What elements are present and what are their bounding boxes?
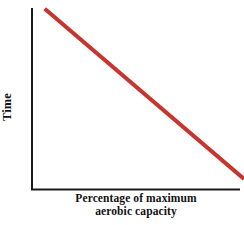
x-axis-label: Percentage of maximum aerobic capacity: [30, 192, 242, 217]
x-axis-label-line2: aerobic capacity: [30, 205, 242, 218]
chart-figure: Time Percentage of maximum aerobic capac…: [0, 0, 244, 225]
y-axis-label: Time: [0, 62, 14, 152]
x-axis-label-line1: Percentage of maximum: [75, 192, 196, 204]
